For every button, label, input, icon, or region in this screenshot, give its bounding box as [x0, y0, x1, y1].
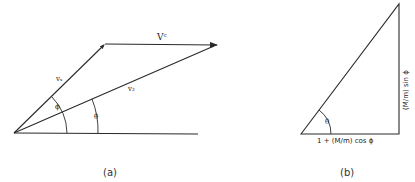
- diagram-canvas: [0, 0, 415, 182]
- figure-a-vector-diagram: [14, 44, 217, 134]
- label-v2: v₂: [128, 86, 135, 93]
- label-phi: ϕ: [55, 104, 60, 111]
- vector-v2: [14, 46, 214, 133]
- baseline: [14, 133, 198, 134]
- label-side: (M/m) sin ϕ: [403, 70, 410, 110]
- triangle: [301, 4, 399, 134]
- label-vs: vₛ: [56, 76, 62, 83]
- label-base: 1 + (M/m) cos ϕ: [317, 138, 373, 145]
- label-theta-b: θ: [325, 119, 329, 126]
- vector-vs: [14, 45, 104, 133]
- label-vc: Vᶜ: [157, 33, 167, 42]
- caption-b: (b): [340, 167, 354, 178]
- vector-vc: [105, 44, 217, 45]
- figure-b-triangle: [301, 4, 399, 134]
- caption-a: (a): [103, 167, 117, 178]
- label-theta: θ: [94, 114, 98, 121]
